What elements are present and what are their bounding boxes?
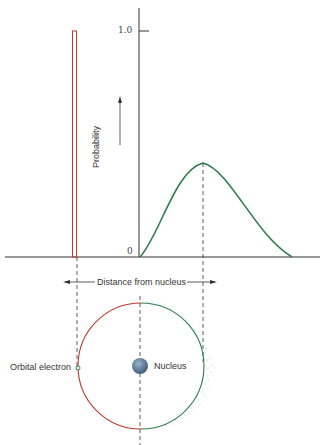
orbital-diagram <box>0 0 326 445</box>
bohr-orbit-arc <box>78 303 141 429</box>
y-tick-label-zero: 0 <box>127 247 133 256</box>
quantum-probability-curve <box>140 163 292 257</box>
bohr-probability-spike <box>73 31 77 257</box>
arrow-left-icon <box>63 280 70 284</box>
nucleus-label: Nucleus <box>154 362 187 371</box>
y-tick-label-top: 1.0 <box>118 26 132 35</box>
orbital-electron-dot <box>76 366 80 370</box>
orbital-electron-label: Orbital electron <box>10 363 71 372</box>
arrow-right-icon <box>210 280 217 284</box>
y-axis-label: Probability <box>92 126 101 168</box>
x-axis-label: Distance from nucleus <box>97 278 186 287</box>
nucleus-sphere <box>132 358 148 374</box>
arrow-up-icon <box>118 96 122 103</box>
